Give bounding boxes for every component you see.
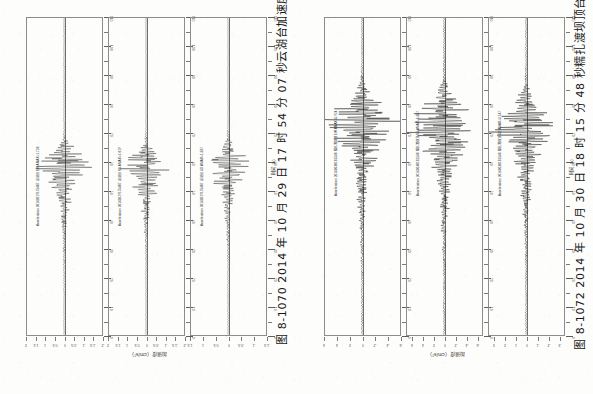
y-tick (26, 337, 27, 341)
y-tick (412, 337, 413, 341)
y-tick (84, 337, 85, 341)
y-tick (103, 337, 104, 341)
y-tick-label: -2 (450, 342, 462, 346)
y-tick-label: 6 (406, 342, 418, 346)
y-tick (350, 337, 351, 341)
scanned-page: Acceleration 20141029175407 云湖台 EW AMAX=… (0, 0, 593, 394)
y-tick-label: -1 (532, 342, 544, 346)
y-tick (505, 337, 506, 341)
y-tick (241, 337, 242, 341)
record-annotation-ud: Acceleration 20141030181548 糯扎渡坝顶 UD AMA… (499, 111, 502, 196)
y-tick-label: 0 (357, 342, 369, 346)
y-tick-label: 0.5 (210, 342, 222, 346)
y-tick (108, 337, 109, 341)
y-tick (118, 337, 119, 341)
x-tick (268, 90, 272, 91)
figure-caption-8-1072: 图 8-1072 2014 年 10 月 30 日 18 时 15 分 48 秒… (575, 0, 586, 350)
y-tick-label: 4 (331, 342, 343, 346)
x-tick (268, 177, 272, 178)
figure-caption-8-1070: 图 8-1070 2014 年 10 月 29 日 17 时 54 分 07 秒… (277, 0, 288, 345)
y-tick (388, 337, 389, 341)
y-tick (156, 337, 157, 341)
plot-area: Acceleration 20141030181548 糯扎渡坝顶 NS AMA… (406, 17, 483, 336)
y-tick (203, 337, 204, 341)
y-tick-label: 0 (439, 342, 451, 346)
y-tick (185, 337, 186, 341)
y-tick-label: -1 (248, 342, 260, 346)
y-tick (549, 337, 550, 341)
figure-group-8-1070: Acceleration 20141029175407 云湖台 EW AMAX=… (0, 0, 295, 394)
y-tick-label: -1.5 (261, 342, 273, 346)
y-tick (147, 337, 148, 341)
y-tick (127, 337, 128, 341)
plot-area: Acceleration 20141030181548 糯扎渡坝顶 EW AMA… (324, 17, 401, 336)
y-tick (363, 337, 364, 341)
x-tick (566, 61, 570, 62)
chart-fig2-channel-ew: Acceleration 20141030181548 糯扎渡坝顶 EW AMA… (324, 17, 401, 336)
y-tick-label: 3 (488, 342, 500, 346)
y-tick (93, 337, 94, 341)
y-tick (375, 337, 376, 341)
y-tick-label: 1.5 (184, 342, 196, 346)
chart-fig2-channel-ud: Acceleration 20141030181548 糯扎渡坝顶 UD AMA… (488, 17, 565, 336)
x-tick (268, 235, 272, 236)
y-tick-label: 0 (521, 342, 533, 346)
plot-area: Acceleration 20141029175407 云湖台 UD AMAX=… (190, 17, 267, 336)
x-tick (268, 206, 272, 207)
y-tick-label: 0 (223, 342, 235, 346)
y-tick (434, 337, 435, 341)
x-tick (268, 32, 272, 33)
y-tick (254, 337, 255, 341)
y-tick (401, 337, 402, 341)
y-tick-label: 6 (318, 342, 330, 346)
x-tick (566, 264, 570, 265)
y-tick (423, 337, 424, 341)
y-axis-title-fig1: 加速度（cm/s²） (118, 352, 178, 357)
x-tick (566, 32, 570, 33)
record-annotation-ud: Acceleration 20141029175407 云湖台 UD AMAX=… (201, 147, 204, 226)
y-tick (324, 337, 325, 341)
x-tick (566, 322, 570, 323)
x-tick (566, 206, 570, 207)
y-tick (467, 337, 468, 341)
y-tick (478, 337, 479, 341)
chart-fig1-channel-ud: Acceleration 20141029175407 云湖台 UD AMAX=… (190, 17, 267, 336)
record-annotation-ew: Acceleration 20141030181548 糯扎渡坝顶 EW AMA… (335, 110, 338, 196)
y-tick-label: 2 (344, 342, 356, 346)
y-tick (267, 337, 268, 341)
y-tick-label: 4 (417, 342, 429, 346)
y-tick (74, 337, 75, 341)
x-tick (566, 148, 570, 149)
x-tick (268, 264, 272, 265)
y-axis-ticks: -2-1.5-1-0.500.511.52 (26, 337, 103, 357)
plot-area: Acceleration 20141029175407 云湖台 EW AMAX=… (26, 17, 103, 336)
x-tick (268, 119, 272, 120)
y-tick (516, 337, 517, 341)
y-tick (216, 337, 217, 341)
chart-fig1-channel-ns: Acceleration 20141029175407 云湖台 NS AMAX=… (108, 17, 185, 336)
y-tick (337, 337, 338, 341)
y-tick-label: 1 (510, 342, 522, 346)
y-tick-label: -4 (461, 342, 473, 346)
y-tick (527, 337, 528, 341)
y-tick-label: 2 (20, 342, 32, 346)
y-tick-label: -2 (543, 342, 555, 346)
y-tick (538, 337, 539, 341)
y-tick-label: 2 (102, 342, 114, 346)
plot-area: Acceleration 20141029175407 云湖台 NS AMAX=… (108, 17, 185, 336)
record-annotation-ns: Acceleration 20141030181548 糯扎渡坝顶 NS AMA… (417, 111, 420, 196)
x-tick (268, 322, 272, 323)
y-tick-label: -6 (472, 342, 484, 346)
x-tick (566, 177, 570, 178)
y-tick (560, 337, 561, 341)
x-tick (268, 148, 272, 149)
x-tick (566, 119, 570, 120)
y-tick-label: -2 (369, 342, 381, 346)
y-tick-label: 2 (428, 342, 440, 346)
y-tick (36, 337, 37, 341)
chart-fig2-channel-ns: Acceleration 20141030181548 糯扎渡坝顶 NS AMA… (406, 17, 483, 336)
plot-area: Acceleration 20141030181548 糯扎渡坝顶 UD AMA… (488, 17, 565, 336)
y-axis-ticks: -1.5-1-0.500.511.5 (190, 337, 267, 357)
x-tick (566, 293, 570, 294)
y-tick (494, 337, 495, 341)
